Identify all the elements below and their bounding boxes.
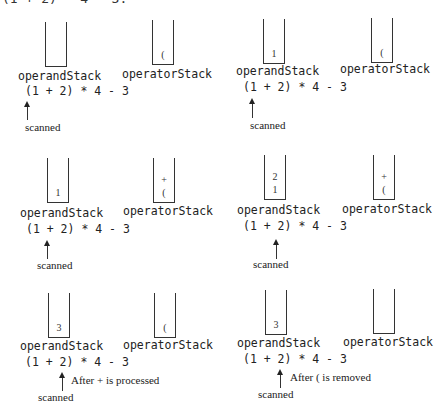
- operator-stack-label: operatorStack: [123, 338, 213, 352]
- scan-pointer-arrow: [47, 245, 48, 259]
- operand-stack: 3: [265, 290, 287, 335]
- step-note: After + is processed: [71, 374, 159, 386]
- scanned-label: scanned: [38, 391, 73, 403]
- operand-stack: [45, 22, 67, 67]
- stack-item: (: [162, 186, 165, 199]
- operator-stack-label: operatorStack: [122, 67, 212, 81]
- expression: (1 + 2) * 4 - 3: [243, 80, 347, 94]
- operand-stack-label: operandStack: [237, 203, 320, 217]
- stack-item: (: [382, 183, 385, 196]
- operator-stack-label: operatorStack: [342, 202, 432, 216]
- scan-pointer-arrow: [62, 377, 63, 391]
- scanned-label: scanned: [37, 259, 72, 271]
- stack-item: 1: [272, 47, 277, 60]
- scan-pointer-arrow: [280, 374, 281, 388]
- scan-pointer-arrow: [276, 244, 277, 259]
- stack-item: (: [161, 48, 164, 61]
- scanned-label: scanned: [258, 388, 293, 400]
- stack-item: 3: [57, 321, 62, 334]
- operand-stack: 1: [47, 158, 69, 203]
- operand-stack: 3: [48, 293, 70, 338]
- scanned-label: scanned: [253, 258, 288, 270]
- stack-item: 1: [273, 183, 278, 196]
- scanned-label: scanned: [250, 119, 285, 131]
- stack-item: 2: [273, 170, 278, 183]
- stack-item: (: [163, 321, 166, 334]
- operand-stack: 1: [263, 19, 285, 64]
- operator-stack-label: operatorStack: [340, 62, 430, 76]
- operand-stack-label: operandStack: [236, 64, 319, 78]
- expression: (1 + 2) * 4 - 3: [243, 219, 347, 233]
- step-panel-2: 1 ( operandStack operatorStack (1 + 2) *…: [223, 0, 446, 140]
- operator-stack: (: [371, 18, 393, 63]
- scan-pointer-arrow: [252, 103, 253, 118]
- step-panel-1: ( operandStack operatorStack (1 + 2) * 4…: [0, 0, 223, 140]
- stack-item: 1: [56, 186, 61, 199]
- operand-stack: 2 1: [264, 155, 286, 200]
- operand-stack-label: operandStack: [20, 339, 103, 353]
- operator-stack: + (: [153, 158, 175, 203]
- operator-stack-label: operatorStack: [343, 335, 433, 349]
- operator-stack: [373, 289, 395, 334]
- operator-stack: + (: [373, 155, 395, 200]
- scanned-label: scanned: [25, 121, 60, 133]
- operand-stack-label: operandStack: [237, 336, 320, 350]
- stack-item: (: [380, 46, 383, 59]
- operator-stack: (: [152, 20, 174, 65]
- step-panel-4: 2 1 + ( operandStack operatorStack (1 + …: [223, 140, 446, 280]
- expression: (1 + 2) * 4 - 3: [25, 355, 129, 369]
- operand-stack-label: operandStack: [20, 206, 103, 220]
- step-note: After ( is removed: [290, 371, 371, 383]
- operator-stack-label: operatorStack: [123, 204, 213, 218]
- stack-item: +: [161, 173, 167, 186]
- step-panel-6: 3 operandStack operatorStack (1 + 2) * 4…: [223, 280, 446, 417]
- scan-pointer-arrow: [27, 106, 28, 120]
- stack-item: +: [381, 170, 387, 183]
- operator-stack: (: [154, 293, 176, 338]
- step-panel-5: 3 ( operandStack operatorStack (1 + 2) *…: [0, 280, 223, 417]
- expression: (1 + 2) * 4 - 3: [243, 352, 347, 366]
- operand-stack-label: operandStack: [18, 69, 101, 83]
- expression: (1 + 2) * 4 - 3: [25, 84, 129, 98]
- stack-item: 3: [274, 318, 279, 331]
- expression: (1 + 2) * 4 - 3: [26, 222, 130, 236]
- step-panel-3: 1 + ( operandStack operatorStack (1 + 2)…: [0, 140, 223, 280]
